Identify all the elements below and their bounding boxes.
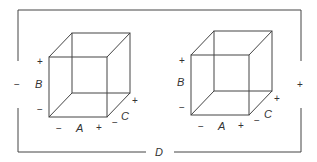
cube-right-b-label: B (177, 76, 184, 88)
factor-d-label: D (155, 146, 163, 158)
cube-right-c-low: − (254, 115, 260, 126)
cube-right-a-high: + (238, 120, 244, 131)
factor-d-low-sign: − (14, 79, 20, 90)
cube-left-a-low: − (56, 123, 62, 134)
cube-right (191, 31, 272, 115)
cube-right-c-high: + (274, 93, 280, 104)
factor-d-high-sign: + (297, 79, 303, 90)
cube-right-c-label: C (264, 108, 272, 120)
cube-right-b-low: − (179, 102, 185, 113)
cube-left-c-label: C (121, 110, 129, 122)
cube-left-b-high: + (37, 56, 43, 67)
factorial-design-diagram: D − + + B − − A + − C + + B − − A + − C … (0, 0, 317, 162)
cube-left (49, 33, 130, 117)
cube-right-a-low: − (198, 121, 204, 132)
cube-left-c-low: − (112, 117, 118, 128)
cube-left-b-low: − (37, 104, 43, 115)
cube-left-c-high: + (132, 95, 138, 106)
cube-left-a-high: + (96, 122, 102, 133)
cube-right-b-high: + (179, 55, 185, 66)
cube-left-b-label: B (35, 78, 42, 90)
cube-right-a-label: A (217, 120, 225, 132)
cube-left-a-label: A (75, 122, 83, 134)
